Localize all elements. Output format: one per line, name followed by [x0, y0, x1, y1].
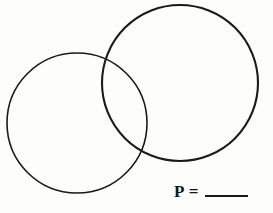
right-circle [102, 5, 258, 161]
venn-diagram [0, 0, 273, 213]
probability-label: P [174, 183, 185, 200]
equals-sign: = [189, 183, 199, 200]
figure-canvas: P = [0, 0, 273, 213]
left-circle [7, 53, 147, 193]
answer-row: P = [174, 183, 248, 200]
answer-blank-input[interactable] [205, 184, 248, 197]
